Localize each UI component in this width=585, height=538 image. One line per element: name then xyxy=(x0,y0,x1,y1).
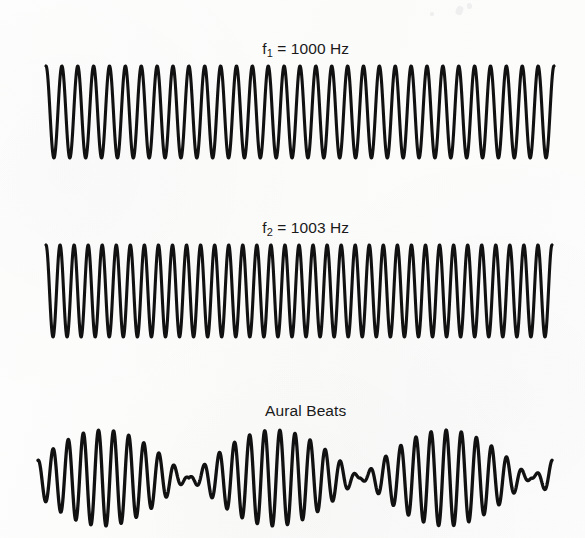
panel-beats: Aural Beats xyxy=(0,360,585,538)
panel-tone-1: f1 = 1000 Hz xyxy=(0,0,585,180)
waveform-plot-tone-1 xyxy=(0,56,585,171)
waveform-path-beats xyxy=(38,430,552,526)
wave-label-value: = 1000 Hz xyxy=(273,40,349,57)
figure-root: f1 = 1000 Hz f2 = 1003 Hz Aural Beats xyxy=(0,0,585,538)
waveform-plot-tone-2 xyxy=(0,235,585,350)
waveform-path-tone-2 xyxy=(46,245,552,337)
wave-label-value: Aural Beats xyxy=(265,402,346,419)
wave-label-value: = 1003 Hz xyxy=(273,219,349,236)
waveform-path-tone-1 xyxy=(46,66,554,158)
panel-tone-2: f2 = 1003 Hz xyxy=(0,180,585,360)
waveform-plot-beats xyxy=(0,418,585,538)
